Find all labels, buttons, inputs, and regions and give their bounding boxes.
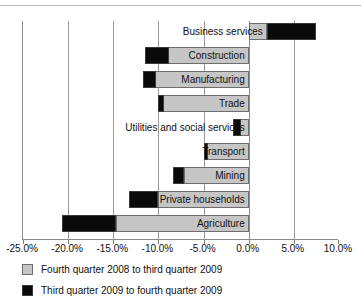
bar-row: Manufacturing (23, 71, 339, 88)
bar-category-label: Mining (23, 168, 249, 183)
bar-row: Agriculture (23, 215, 339, 232)
bar-row: Business services (23, 23, 339, 40)
bar-chart: Business servicesConstructionManufacturi… (0, 0, 361, 258)
bar-category-label: Utilities and social services (23, 120, 249, 135)
legend-label: Fourth quarter 2008 to third quarter 200… (41, 262, 222, 278)
plot-area: Business servicesConstructionManufacturi… (22, 21, 338, 240)
bar-row: Mining (23, 167, 339, 184)
legend-swatch-black (22, 285, 33, 296)
bar-category-label: Transport (23, 144, 249, 159)
bar-row: Private households (23, 191, 339, 208)
bar-category-label: Agriculture (23, 216, 249, 231)
bar-row: Trade (23, 95, 339, 112)
chart-legend: Fourth quarter 2008 to third quarter 200… (0, 262, 361, 305)
bar-category-label: Manufacturing (23, 72, 249, 87)
bar-row: Utilities and social services (23, 119, 339, 136)
bar-category-label: Trade (23, 96, 249, 111)
x-tick-label: 10.0% (308, 243, 361, 254)
bar-category-label: Private households (23, 192, 249, 207)
x-axis-tick-labels: -25.0%-20.0%-15.0%-10.0%-5.0%0.0%5.0%10.… (0, 243, 361, 257)
legend-label: Third quarter 2009 to fourth quarter 200… (41, 283, 222, 299)
bar-row: Construction (23, 47, 339, 64)
bar-row: Transport (23, 143, 339, 160)
legend-swatch-gray (22, 264, 33, 275)
bar-segment-latest-quarter (267, 23, 317, 40)
bar-category-label: Construction (23, 48, 249, 63)
bar-category-label: Business services (23, 24, 267, 39)
